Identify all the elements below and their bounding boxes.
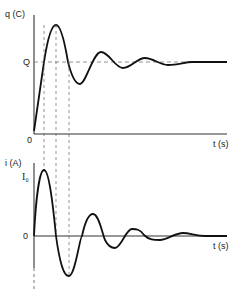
charge-curve bbox=[34, 25, 227, 131]
i-axis-label: i (A) bbox=[5, 158, 22, 168]
q-axis-label: q (C) bbox=[5, 9, 25, 19]
i0-tick-label: I₀ bbox=[22, 171, 29, 182]
q-tick-label: Q bbox=[23, 57, 30, 67]
current-plot: i (A) I₀ 0 t (s) bbox=[5, 158, 229, 290]
zero-tick-top: 0 bbox=[27, 135, 32, 145]
t-axis-label-bottom: t (s) bbox=[213, 241, 229, 251]
zero-tick-bottom: 0 bbox=[23, 231, 28, 241]
charge-plot: q (C) Q 0 t (s) bbox=[5, 9, 229, 149]
diagram: q (C) Q 0 t (s) i (A) I₀ 0 t (s) bbox=[0, 0, 243, 303]
current-curve bbox=[34, 170, 227, 276]
t-axis-label-top: t (s) bbox=[213, 139, 229, 149]
